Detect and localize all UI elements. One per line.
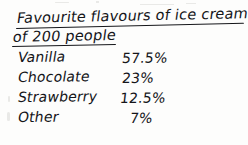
flavour-percentage-list: Vanilla 57.5% Chocolate 23% Strawberry 1… (0, 48, 248, 145)
flavour-label: Chocolate (17, 69, 91, 84)
handwritten-note-page: Favourite flavours of ice cream of 200 p… (0, 0, 248, 145)
note-title: Favourite flavours of ice cream of 200 p… (0, 0, 248, 48)
title-line-2: of 200 people (12, 28, 117, 45)
list-item: Vanilla 57.5% (0, 50, 248, 70)
flavour-label: Vanilla (17, 50, 67, 64)
list-item: Chocolate 23% (0, 70, 248, 90)
percentage-value: 23% (121, 71, 154, 85)
list-item: Other 7% (0, 110, 248, 130)
percentage-value: 57.5% (121, 51, 168, 65)
flavour-label: Strawberry (17, 89, 99, 104)
percentage-value: 12.5% (119, 91, 166, 105)
list-item: Strawberry 12.5% (0, 90, 248, 110)
percentage-value: 7% (129, 111, 153, 125)
flavour-label: Other (17, 110, 60, 124)
